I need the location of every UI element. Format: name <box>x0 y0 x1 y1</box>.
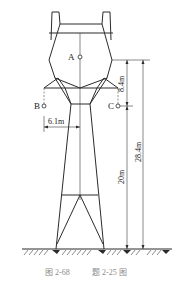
dimension-6.1m: 6.1m <box>44 116 80 132</box>
point-b: B <box>34 88 46 111</box>
figure-caption: 图 2-68 <box>45 268 70 277</box>
tower-top <box>49 12 113 60</box>
dimension-8.4m: 8.4m <box>117 60 129 106</box>
label-a: A <box>68 52 75 62</box>
label-c: C <box>108 101 114 111</box>
ground <box>22 249 172 255</box>
dim-label-28.4m: 28.4m <box>134 141 143 162</box>
problem-caption: 题 2-25 图 <box>92 268 127 277</box>
transmission-tower-diagram: A B C 6.1m 8.4m 20m <box>0 0 185 288</box>
dimension-28.4m: 28.4m <box>134 60 145 249</box>
dimension-20m: 20m <box>117 106 129 249</box>
dim-label-20m: 20m <box>117 169 126 184</box>
dim-label-6.1m: 6.1m <box>48 117 65 126</box>
tower-window <box>44 60 118 104</box>
label-b: B <box>34 101 40 111</box>
dim-label-8.4m: 8.4m <box>117 75 126 92</box>
